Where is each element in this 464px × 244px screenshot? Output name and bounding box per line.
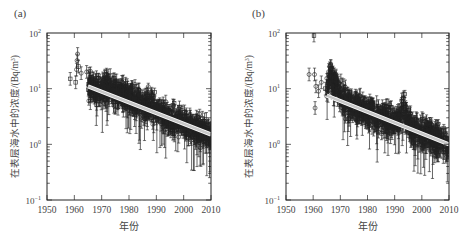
y-axis-label: 在表层海水中的浓度/(Bq/m3) bbox=[9, 55, 21, 178]
x-tick-label: 2000 bbox=[174, 205, 193, 215]
chart-panel-a: (a)10210110010−1195019601970198019902000… bbox=[0, 0, 232, 244]
x-tick-label: 1990 bbox=[147, 205, 166, 215]
x-tick-label: 2000 bbox=[412, 205, 431, 215]
y-tick-label: 100 bbox=[268, 139, 280, 150]
plot-b: (b)10210110010−1195019601970198019902000… bbox=[232, 0, 464, 244]
x-tick-label: 2010 bbox=[440, 205, 459, 215]
x-tick-label: 2010 bbox=[202, 205, 221, 215]
y-tick-label: 102 bbox=[268, 28, 280, 39]
y-tick-label: 10−1 bbox=[26, 195, 41, 206]
panel-label: (b) bbox=[252, 7, 265, 20]
panel-label: (a) bbox=[14, 7, 27, 20]
data-points bbox=[68, 48, 212, 178]
y-tick-label: 102 bbox=[29, 28, 41, 39]
x-tick-label: 1980 bbox=[120, 205, 139, 215]
x-tick-label: 1960 bbox=[65, 205, 84, 215]
y-tick-label: 10−1 bbox=[265, 195, 280, 206]
x-axis-label: 年份 bbox=[358, 220, 378, 232]
y-tick-label: 100 bbox=[29, 139, 41, 150]
chart-panel-b: (b)10210110010−1195019601970198019902000… bbox=[232, 0, 464, 244]
x-tick-label: 1970 bbox=[92, 205, 111, 215]
x-tick-label: 1950 bbox=[277, 205, 296, 215]
x-tick-label: 1980 bbox=[358, 205, 377, 215]
y-tick-label: 101 bbox=[29, 83, 41, 94]
x-tick-label: 1950 bbox=[38, 205, 57, 215]
y-tick-label: 101 bbox=[268, 83, 280, 94]
x-axis-label: 年份 bbox=[119, 220, 139, 232]
x-tick-label: 1990 bbox=[385, 205, 404, 215]
x-tick-label: 1960 bbox=[304, 205, 323, 215]
data-points bbox=[307, 29, 451, 182]
plot-a: (a)10210110010−1195019601970198019902000… bbox=[0, 0, 232, 244]
y-axis-label: 在表层海水中的浓度/(Bq/m3) bbox=[243, 55, 255, 178]
x-tick-label: 1970 bbox=[331, 205, 350, 215]
